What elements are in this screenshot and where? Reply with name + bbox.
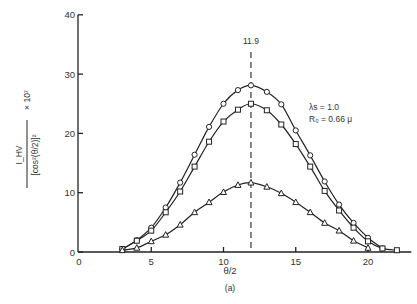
triangle-marker <box>293 199 299 205</box>
y-tick-label: 40 <box>64 9 75 20</box>
circle-marker <box>293 128 298 133</box>
annotation-radius: R₀ = 0.66 μ <box>309 114 352 124</box>
circle-marker <box>178 180 183 185</box>
y-tick-label: 10 <box>64 187 75 198</box>
square-marker <box>163 210 168 215</box>
square-marker <box>293 142 298 147</box>
chart: 01020304005101520 11.9 I_HV [cos²(θ/2)]²… <box>0 0 417 304</box>
square-marker <box>366 239 371 244</box>
square-marker <box>279 122 284 127</box>
y-label-multiplier: × 10⁷ <box>22 90 32 110</box>
series-circles <box>120 83 385 252</box>
circle-marker <box>235 88 240 93</box>
y-axis-label: I_HV [cos²(θ/2)]² × 10⁷ <box>14 90 40 188</box>
square-marker <box>394 248 399 253</box>
x-tick-label: 20 <box>363 256 374 267</box>
circle-marker <box>337 202 342 207</box>
triangle-marker <box>206 199 212 205</box>
axes: 01020304005101520 <box>64 9 411 267</box>
triangle-marker <box>278 190 284 196</box>
square-marker <box>337 208 342 213</box>
triangle-marker <box>163 232 169 238</box>
y-label-numerator: I_HV <box>14 145 24 164</box>
curve-circles <box>122 85 382 249</box>
square-marker <box>380 246 385 251</box>
square-marker <box>192 164 197 169</box>
circle-marker <box>264 89 269 94</box>
square-marker <box>221 119 226 124</box>
triangle-marker <box>192 209 198 215</box>
y-label-denominator: [cos²(θ/2)]² <box>30 134 40 175</box>
triangle-marker <box>221 189 227 195</box>
square-marker <box>322 188 327 193</box>
y-tick-label: 20 <box>64 128 75 139</box>
square-marker <box>351 225 356 230</box>
series-triangles <box>119 179 371 252</box>
square-marker <box>207 139 212 144</box>
reference-line-label: 11.9 <box>243 36 259 46</box>
series-squares <box>120 101 400 252</box>
square-marker <box>134 238 139 243</box>
square-marker <box>235 107 240 112</box>
square-marker <box>264 108 269 113</box>
reference-line: 11.9 <box>243 36 259 252</box>
square-marker <box>178 189 183 194</box>
square-marker <box>308 164 313 169</box>
triangle-marker <box>307 209 313 215</box>
x-axis-label: θ/2 <box>223 265 236 276</box>
circle-marker <box>279 102 284 107</box>
circle-marker <box>248 83 253 88</box>
triangle-marker <box>322 220 328 226</box>
square-marker <box>248 101 253 106</box>
circle-marker <box>221 101 226 106</box>
circle-marker <box>192 152 197 157</box>
x-tick-label: 0 <box>76 256 81 267</box>
data-series <box>119 83 399 253</box>
x-tick-label: 5 <box>149 256 154 267</box>
x-tick-label: 15 <box>290 256 301 267</box>
y-tick-label: 30 <box>64 69 75 80</box>
circle-marker <box>308 153 313 158</box>
figure-caption: (a) <box>225 283 236 293</box>
triangle-marker <box>336 227 342 233</box>
annotation-lambda: λs = 1.0 <box>309 102 339 112</box>
triangle-marker <box>351 238 357 244</box>
square-marker <box>149 228 154 233</box>
circle-marker <box>206 124 211 129</box>
circle-marker <box>322 179 327 184</box>
y-tick-label: 0 <box>70 247 75 258</box>
